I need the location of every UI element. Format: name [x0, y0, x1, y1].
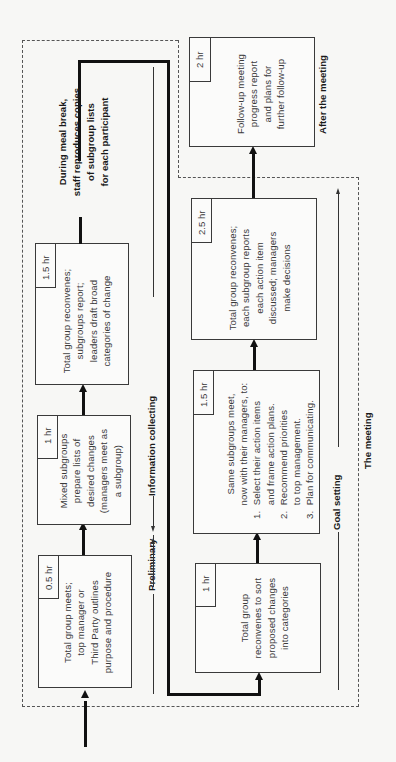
region-label-the-meeting: The meeting	[362, 412, 373, 469]
arrow-5-to-6-line	[253, 344, 256, 370]
step-6-line-3: each action item	[253, 223, 266, 333]
step-1-line-2: top manager or	[74, 565, 87, 680]
duration-label-7: 2 hr	[194, 51, 205, 68]
meal-break-line-2: staff reproduces copies	[70, 72, 84, 212]
step-box-3: 1.5 hr Total group reconvenes; subgroups…	[35, 243, 129, 385]
step-text-1: Total group meets; top manager or Third …	[61, 565, 115, 680]
meeting-region-left-border	[22, 40, 23, 707]
step-5-line-7: 3. Plan for communicating.	[303, 369, 316, 519]
step-box-7: 2 hr Follow-up meeting progress report a…	[189, 37, 315, 147]
connector-into-step4-head	[255, 672, 263, 680]
entry-arrow-head	[81, 690, 89, 698]
duration-badge-2: 1 hr	[37, 415, 58, 459]
meeting-region-right-border	[358, 177, 359, 707]
goal-setting-arrow	[336, 188, 340, 194]
meal-break-line-3: of subgroup lists	[84, 72, 98, 212]
duration-badge-1: 0.5 hr	[38, 555, 59, 599]
arrow-6-to-7-head	[249, 146, 257, 154]
step-box-4: 1 hr Total group reconvenes to sort prop…	[195, 563, 321, 673]
information-timeline-upper	[153, 67, 154, 297]
step-text-3: Total group reconvenes; subgroups report…	[60, 266, 114, 376]
step-text-5: Same subgroups meet, now with their mana…	[224, 369, 316, 519]
step-7-line-4: further follow-up	[274, 46, 287, 142]
step-2-line-5: a subgroup)	[111, 426, 124, 516]
step-2-line-1: Mixed subgroups	[57, 426, 70, 516]
arrow-2-to-3-head	[79, 384, 87, 392]
step-4-line-1: Total group	[238, 568, 251, 668]
step-2-line-2: prepare lists of	[70, 426, 83, 516]
step-5-line-2: now with their managers, to:	[237, 369, 250, 519]
duration-badge-6: 2.5 hr	[191, 198, 212, 243]
arrow-2-to-3-line	[82, 389, 85, 415]
step-4-line-2: reconvenes to sort	[251, 568, 264, 668]
duration-label-1: 0.5 hr	[43, 565, 54, 590]
step-3-line-3: leaders draft broad	[87, 266, 100, 376]
duration-label-6: 2.5 hr	[196, 210, 207, 235]
duration-badge-4: 1 hr	[195, 563, 216, 607]
meal-break-line-4: for each participant	[98, 72, 112, 212]
preliminary-end-arrow	[151, 538, 155, 544]
step-3-line-2: subgroups report;	[73, 266, 86, 376]
step-5-line-5: 2. Recommend priorities	[277, 369, 290, 519]
step-box-2: 1 hr Mixed subgroups prepare lists of de…	[37, 415, 131, 525]
arrow-1-to-2-line	[82, 527, 85, 555]
step-5-line-3: 1. Select their action items	[250, 369, 263, 519]
step-6-line-4: discussed; managers	[266, 223, 279, 333]
step-3-line-1: Total group reconvenes;	[60, 266, 73, 376]
arrow-5-to-6-head	[250, 339, 258, 347]
duration-label-2: 1 hr	[42, 427, 53, 444]
arrow-4-to-5-line	[256, 537, 259, 563]
duration-label-4: 1 hr	[200, 575, 211, 592]
region-label-after-the-meeting: After the meeting	[317, 55, 328, 134]
meeting-region-step-border	[178, 177, 359, 178]
duration-badge-5: 1.5 hr	[193, 370, 214, 415]
step-box-6: 2.5 hr Total group reconvenes; each subg…	[191, 198, 317, 340]
duration-label-5: 1.5 hr	[198, 382, 209, 407]
connector-long-vertical	[167, 60, 170, 696]
meal-break-note: During meal break, staff reproduces copi…	[56, 72, 112, 212]
information-timeline-lower	[153, 496, 154, 528]
step-6-line-1: Total group reconvenes;	[226, 223, 239, 333]
meal-break-line-1: During meal break,	[56, 72, 70, 212]
phase-label-information-collecting: Information collecting	[146, 396, 157, 496]
phase-label-goal-setting: Goal setting	[331, 475, 342, 530]
step-text-2: Mixed subgroups prepare lists of desired…	[57, 426, 124, 516]
step-4-line-3: proposed changes	[265, 568, 278, 668]
step-box-5: 1.5 hr Same subgroups meet, now with the…	[193, 370, 320, 534]
step-text-6: Total group reconvenes; each subgroup re…	[226, 223, 293, 333]
connector-bottom-horizontal	[167, 693, 261, 696]
step-5-line-6: to top management.	[290, 369, 303, 519]
step-1-line-4: purpose and procedure	[101, 565, 114, 680]
meeting-region-inner-right-border	[178, 40, 179, 178]
step-6-line-2: each subgroup reports	[239, 223, 252, 333]
step-2-line-4: (managers meet as	[97, 426, 110, 516]
meeting-region-bottom-border	[22, 706, 359, 707]
connector-into-step4	[258, 680, 261, 696]
step-5-line-1: Same subgroups meet,	[224, 369, 237, 519]
connector-top-horizontal	[78, 60, 170, 63]
step-1-line-3: Third Party outlines	[88, 565, 101, 680]
arrow-6-to-7-line	[252, 151, 255, 198]
goal-setting-timeline-upper	[338, 192, 339, 447]
connector-step3-up	[79, 217, 82, 244]
step-text-4: Total group reconvenes to sort proposed …	[238, 568, 292, 668]
step-4-line-4: into categories	[278, 568, 291, 668]
step-7-line-3: and plans for	[261, 46, 274, 142]
duration-label-3: 1.5 hr	[40, 255, 51, 280]
duration-badge-3: 1.5 hr	[35, 243, 56, 288]
step-2-line-3: desired changes	[84, 426, 97, 516]
meeting-region-top-left-border	[22, 40, 178, 41]
step-3-line-4: categories of change	[100, 266, 113, 376]
step-6-line-5: make decisions	[280, 223, 293, 333]
step-text-7: Follow-up meeting progress report and pl…	[234, 46, 288, 142]
phase-label-preliminary: Preliminary	[146, 539, 157, 591]
step-1-line-1: Total group meets;	[61, 565, 74, 680]
step-7-line-2: progress report	[247, 46, 260, 142]
entry-arrow-line	[84, 701, 87, 747]
preliminary-timeline-line	[153, 594, 154, 694]
duration-badge-7: 2 hr	[189, 37, 211, 82]
step-5-line-4: and frame action plans.	[264, 369, 277, 519]
step-box-1: 0.5 hr Total group meets; top manager or…	[38, 555, 132, 688]
goal-setting-timeline-lower	[338, 532, 339, 690]
step-7-line-1: Follow-up meeting	[234, 46, 247, 142]
